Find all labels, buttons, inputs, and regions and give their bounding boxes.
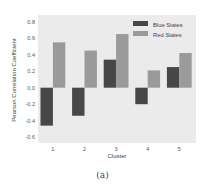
y-tick-label: -0.4 (26, 118, 35, 124)
legend-swatch-red-states (133, 31, 148, 36)
x-axis-ticks: 12345 (51, 146, 180, 152)
y-tick-label: 0.0 (27, 85, 35, 91)
y-tick-label: 0.4 (27, 52, 35, 58)
y-axis-ticks: 0.80.60.40.20.0-0.2-0.4-0.6 (26, 19, 35, 141)
y-axis-label: Pearson Correlation Coefficient (11, 38, 17, 122)
bar-red-states-cluster-4 (148, 70, 160, 87)
legend-swatch-blue-states (133, 21, 148, 26)
y-tick-label: -0.6 (26, 134, 35, 140)
x-tick-label: 4 (146, 146, 149, 152)
bar-blue-states-cluster-5 (167, 67, 179, 88)
y-tick-label: 0.8 (27, 19, 35, 25)
legend-label-blue-states: Blue States (153, 22, 183, 28)
bar-blue-states-cluster-1 (41, 88, 53, 126)
bar-red-states-cluster-2 (85, 51, 97, 88)
y-tick-label: -0.2 (26, 101, 35, 107)
bar-red-states-cluster-5 (179, 53, 191, 88)
bar-blue-states-cluster-2 (72, 88, 84, 116)
bar-chart: 0.80.60.40.20.0-0.2-0.4-0.6 12345 Pearso… (0, 0, 205, 192)
x-axis-label: Cluster (107, 153, 126, 159)
y-tick-label: 0.2 (27, 68, 35, 74)
x-tick-label: 2 (83, 146, 86, 152)
bar-blue-states-cluster-3 (104, 60, 116, 88)
bar-red-states-cluster-3 (116, 34, 128, 88)
x-tick-label: 5 (178, 146, 181, 152)
bar-blue-states-cluster-4 (135, 88, 147, 105)
x-tick-label: 1 (51, 146, 54, 152)
figure-caption: (a) (0, 170, 205, 180)
y-tick-label: 0.6 (27, 35, 35, 41)
x-tick-label: 3 (115, 146, 118, 152)
legend-label-red-states: Red States (153, 32, 182, 38)
bar-red-states-cluster-1 (53, 42, 65, 87)
